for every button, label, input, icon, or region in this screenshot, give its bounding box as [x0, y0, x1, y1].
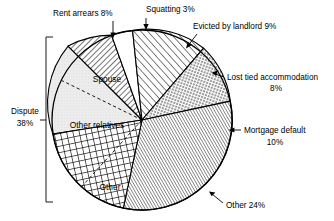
callout-label-squatting: Squatting 3%: [146, 5, 195, 14]
bracket-value-dispute: 38%: [17, 119, 33, 128]
inner-label-other-relatives: Other relatives: [70, 120, 124, 130]
inner-label-spouse: Spouse: [93, 74, 122, 84]
callout-value-mortgage-default: 10%: [267, 138, 283, 147]
callout-label-mortgage-default: Mortgage default: [244, 126, 306, 135]
pie-chart-figure: Spouse Other relatives Other Rent arrear…: [0, 0, 334, 221]
callout-label-rent-arrears: Rent arrears 8%: [53, 9, 113, 18]
callout-label-other: Other 24%: [226, 201, 265, 210]
pie-chart-svg: Spouse Other relatives Other Rent arrear…: [0, 0, 334, 221]
callout-label-evicted-by-landlord: Evicted by landlord 9%: [193, 22, 276, 31]
bracket-label-dispute: Dispute: [11, 107, 39, 116]
callout-arrow-other: [209, 192, 223, 204]
callout-value-lost-tied-accommodation: 8%: [270, 84, 282, 93]
callout-arrow-squatting: [143, 18, 148, 30]
callout-label-lost-tied-accommodation: Lost tied accommodation: [227, 73, 318, 82]
inner-label-other: Other: [100, 182, 121, 192]
